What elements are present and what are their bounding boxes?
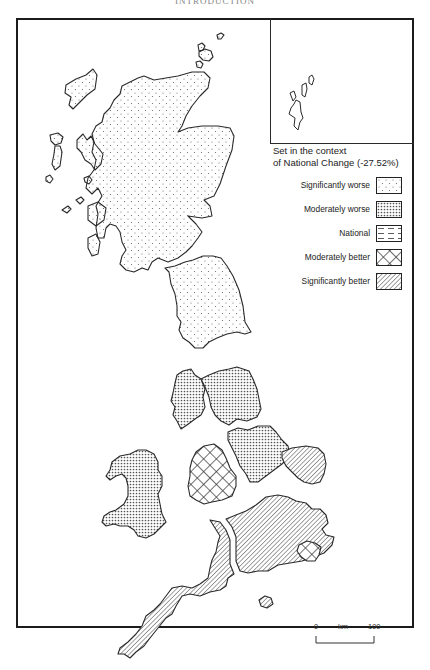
legend-item-significantly-better: Significantly better [270, 269, 412, 293]
shetland-inset-box [270, 18, 414, 144]
scale-start-label: 0 [314, 622, 318, 631]
region-north [165, 256, 251, 348]
scale-unit-label: km [338, 622, 348, 631]
diagonal-lines-swatch-icon [376, 273, 402, 290]
region-south-west [118, 520, 234, 658]
legend-item-significantly-worse: Significantly worse [270, 173, 412, 197]
region-west-midlands [188, 444, 236, 504]
legend-label: National [339, 228, 370, 238]
region-north-west [171, 369, 205, 429]
orkney-islands [196, 33, 224, 68]
western-isles [46, 69, 97, 183]
legend-title-line1: Set in the context [270, 145, 412, 157]
isle-of-wight [259, 596, 273, 608]
legend-item-national: National [270, 221, 412, 245]
region-wales [102, 450, 166, 538]
legend-item-moderately-worse: Moderately worse [270, 197, 412, 221]
region-scotland [86, 72, 234, 272]
scale-bar: 0 km 100 [314, 622, 394, 650]
legend-title-line2: of National Change (-27.52%) [270, 157, 412, 169]
scale-end-label: 100 [368, 622, 381, 631]
crosshatch-swatch-icon [376, 249, 402, 266]
legend-item-moderately-better: Moderately better [270, 245, 412, 269]
scale-bar-line-icon [314, 636, 394, 646]
region-yorkshire-humberside [201, 367, 261, 425]
dense-dots-swatch-icon [376, 201, 402, 218]
legend: Set in the context of National Change (-… [270, 145, 412, 293]
region-east-midlands [228, 426, 290, 482]
legend-label: Significantly worse [301, 180, 370, 190]
sparse-dots-swatch-icon [376, 177, 402, 194]
region-east-anglia [282, 446, 326, 484]
region-south-east [226, 495, 334, 573]
legend-label: Moderately better [305, 252, 370, 262]
dashes-swatch-icon [376, 225, 402, 242]
legend-label: Significantly better [302, 276, 370, 286]
legend-label: Moderately worse [304, 204, 370, 214]
